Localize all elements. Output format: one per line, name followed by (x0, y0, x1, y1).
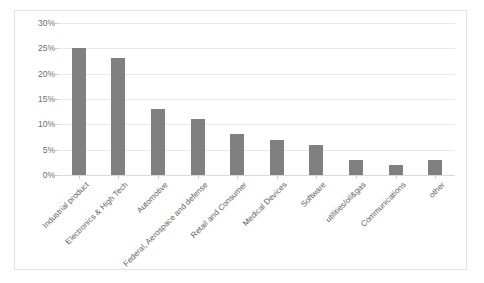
bar-slot (178, 23, 218, 175)
plot-area (59, 23, 455, 175)
bar[interactable] (230, 134, 244, 175)
x-axis-category-label: Automotive (136, 181, 171, 216)
bar[interactable] (111, 58, 125, 175)
chart-figure: 0%5%10%15%20%25%30% Industrial productEl… (14, 10, 467, 270)
bar[interactable] (151, 109, 165, 175)
y-axis-tick-label: 30% (13, 19, 55, 28)
bar-slot (376, 23, 416, 175)
bar-slot (297, 23, 337, 175)
bar-slot (99, 23, 139, 175)
bar-slot (336, 23, 376, 175)
bar-slot (257, 23, 297, 175)
bar[interactable] (72, 48, 86, 175)
bar-slot (59, 23, 99, 175)
bar[interactable] (309, 145, 323, 175)
y-axis-tick-label: 25% (13, 44, 55, 53)
y-axis: 0%5%10%15%20%25%30% (15, 23, 55, 175)
x-axis-category-label: other (428, 181, 447, 200)
bar-slot (217, 23, 257, 175)
y-axis-tick-label: 0% (13, 171, 55, 180)
bar[interactable] (191, 119, 205, 175)
bar[interactable] (349, 160, 363, 175)
x-axis-category-label: Software (300, 181, 329, 210)
x-axis-category-label: Medical Devices (242, 181, 289, 228)
bar-slot (415, 23, 455, 175)
y-axis-tick-label: 10% (13, 120, 55, 129)
y-axis-tick-label: 5% (13, 145, 55, 154)
bar[interactable] (428, 160, 442, 175)
bar-slot (138, 23, 178, 175)
bar[interactable] (389, 165, 403, 175)
bar[interactable] (270, 140, 284, 175)
y-axis-tick-label: 20% (13, 69, 55, 78)
x-axis-category-labels: Industrial productElectronics & High Tec… (59, 179, 455, 265)
y-axis-tick-label: 15% (13, 95, 55, 104)
